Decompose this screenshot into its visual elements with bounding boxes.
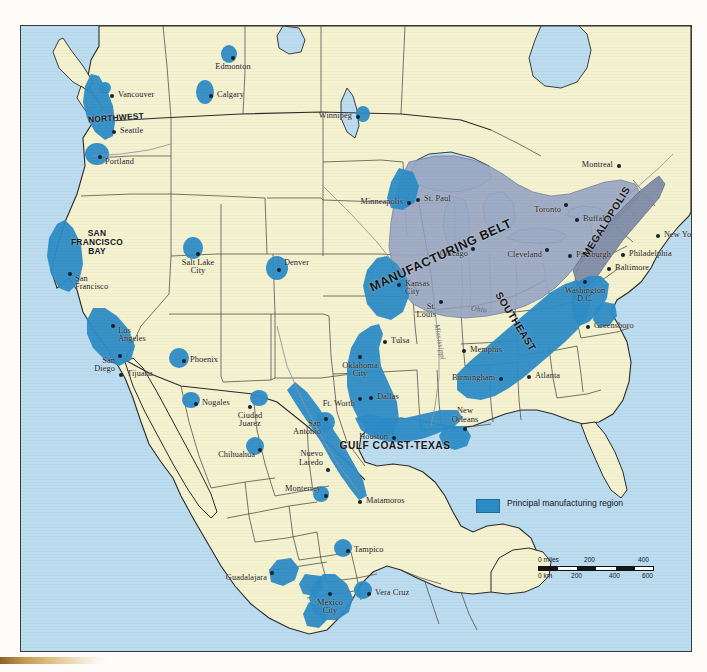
scale-km-tick-400: 400 xyxy=(609,572,620,579)
city-label: New Orleans xyxy=(452,407,479,424)
city-dot-icon xyxy=(358,500,362,504)
city-dot-icon xyxy=(499,377,503,381)
map-frame: EdmontonCalgaryWinnipegVancouverSeattleP… xyxy=(20,25,692,652)
city-dot-icon xyxy=(196,252,200,256)
region-nogales xyxy=(182,392,200,408)
city-dot-icon xyxy=(231,56,235,60)
city-dot-icon xyxy=(328,592,332,596)
city-label: Tampico xyxy=(354,546,384,554)
city-dot-icon xyxy=(358,397,362,401)
scale-bar-graphic xyxy=(538,566,654,571)
legend-label-principal-region: Principal manufacturing region xyxy=(507,498,623,509)
city-dot-icon xyxy=(607,267,611,271)
city-dot-icon xyxy=(324,417,328,421)
city-dot-icon xyxy=(383,340,387,344)
city-label: Guadalajara xyxy=(226,574,267,582)
city-label: Winnipeg xyxy=(319,112,352,120)
city-dot-icon xyxy=(119,373,123,377)
city-label: Denver xyxy=(284,259,309,267)
city-label: San Antonio xyxy=(293,420,321,437)
city-label: St. Paul xyxy=(424,195,451,203)
legend-row-principal-region: Principal manufacturing region xyxy=(476,498,656,513)
city-label: Chihuahua xyxy=(218,451,255,459)
scale-miles-zero-label: 0 miles xyxy=(538,556,559,563)
region-label-san-francisco-bay: SAN FRANCISCO BAY xyxy=(71,229,123,256)
city-label: Memphis xyxy=(470,346,502,354)
city-label: Dallas xyxy=(377,393,399,401)
city-label: Atlanta xyxy=(535,372,560,380)
city-label: Monterrey xyxy=(285,485,321,493)
region-tampico xyxy=(334,539,352,557)
city-label: Ciudad Juarez xyxy=(238,412,263,429)
city-label: Phoenix xyxy=(190,356,218,364)
city-dot-icon xyxy=(586,325,590,329)
city-dot-icon xyxy=(270,571,274,575)
city-dot-icon xyxy=(356,115,360,119)
city-dot-icon xyxy=(277,268,281,272)
city-dot-icon xyxy=(98,155,102,159)
page-edge-gradient-mark xyxy=(0,657,112,664)
city-dot-icon xyxy=(656,234,660,238)
city-dot-icon xyxy=(68,272,72,276)
city-dot-icon xyxy=(575,218,579,222)
city-label: Ft. Worth xyxy=(323,400,355,408)
city-label: Minneapolis xyxy=(360,198,403,206)
scale-miles-tick-400: 400 xyxy=(638,556,649,563)
city-label: San Francisco xyxy=(75,275,108,292)
city-dot-icon xyxy=(209,94,213,98)
city-label: Philadelphia xyxy=(629,250,672,258)
scale-miles-tick-200: 200 xyxy=(584,556,595,563)
city-dot-icon xyxy=(112,130,116,134)
city-dot-icon xyxy=(527,375,531,379)
city-label: Kansas City xyxy=(405,280,430,297)
city-label: Los Angeles xyxy=(118,327,146,344)
city-label: Salt Lake City xyxy=(182,259,214,276)
city-dot-icon xyxy=(439,300,443,304)
region-winnipeg xyxy=(356,106,370,122)
city-dot-icon xyxy=(358,355,362,359)
city-dot-icon xyxy=(324,494,328,498)
city-dot-icon xyxy=(248,405,252,409)
city-dot-icon xyxy=(617,164,621,168)
scale-miles-ticks: 0 miles 200 400 xyxy=(538,556,654,565)
city-dot-icon xyxy=(621,253,625,257)
city-dot-icon xyxy=(118,354,122,358)
city-dot-icon xyxy=(194,402,198,406)
region-calgary xyxy=(196,80,214,104)
river-label-ohio: Ohio xyxy=(471,304,488,315)
city-label: Greensboro xyxy=(594,322,634,330)
city-dot-icon xyxy=(564,203,568,207)
city-dot-icon xyxy=(182,359,186,363)
city-label: Nogales xyxy=(202,399,230,407)
city-label: Oklahoma City xyxy=(342,362,377,379)
scale-km-zero-label: 0 km xyxy=(538,572,552,579)
city-label: Mexico City xyxy=(317,599,343,616)
city-label: Edmonton xyxy=(215,63,250,71)
city-label: Seattle xyxy=(120,127,143,135)
city-dot-icon xyxy=(346,549,350,553)
city-dot-icon xyxy=(462,349,466,353)
scanned-map-page: EdmontonCalgaryWinnipegVancouverSeattleP… xyxy=(0,0,707,672)
region-label-gulf-coast-texas: GULF COAST-TEXAS xyxy=(339,441,450,452)
city-dot-icon xyxy=(110,94,114,98)
city-dot-icon xyxy=(111,324,115,328)
city-label: Montreal xyxy=(582,161,613,169)
city-dot-icon xyxy=(463,427,467,431)
region-ciudad-juarez xyxy=(250,390,268,406)
scale-km-tick-600: 600 xyxy=(642,572,653,579)
city-dot-icon xyxy=(407,201,411,205)
city-label: Tulsa xyxy=(391,337,410,345)
city-label: Vera Cruz xyxy=(375,589,409,597)
city-label: Matamoros xyxy=(366,497,405,505)
map-scale-bar: 0 miles 200 400 0 km 200 400 600 xyxy=(538,556,654,581)
city-dot-icon xyxy=(326,468,330,472)
region-vera-cruz xyxy=(354,581,372,599)
city-label: Birmingham xyxy=(452,374,495,382)
city-dot-icon xyxy=(545,248,549,252)
city-label: Vancouver xyxy=(118,91,154,99)
city-label: Baltimore xyxy=(615,264,649,272)
region-salt-lake-city xyxy=(183,237,203,259)
region-edmonton xyxy=(221,45,237,63)
city-label: Washington D.C. xyxy=(565,287,605,304)
city-label: Portland xyxy=(105,158,134,166)
